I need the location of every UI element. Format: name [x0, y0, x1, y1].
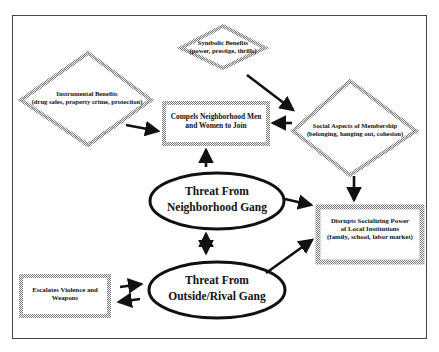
rival-gang-label: Threat From Outside/Rival Gang	[152, 273, 282, 304]
neighborhood-gang-label: Threat From Neighborhood Gang	[152, 184, 282, 215]
disrupts-line1: Disrupts Socializing Power	[320, 217, 420, 225]
rival-line1: Threat From	[152, 273, 282, 289]
social-detail: (belonging, hanging out, cohesion)	[296, 130, 414, 138]
arrow-instrumental-to-compels	[126, 125, 158, 131]
neighborhood-line2: Neighborhood Gang	[152, 200, 282, 216]
symbolic-benefits-label: Symbolic Benefits (power, prestige, thri…	[186, 39, 260, 55]
disrupts-line2: of Local Institutions	[320, 225, 420, 233]
arrow-rival-to-escalates	[119, 299, 140, 302]
social-title: Social Aspects of Membership	[313, 122, 397, 129]
neighborhood-line1: Threat From	[152, 184, 282, 200]
disrupts-label: Disrupts Socializing Power of Local Inst…	[320, 217, 420, 241]
arrow-neighborhood-to-disrupts	[285, 199, 311, 205]
arrow-rival-to-disrupts	[266, 240, 312, 273]
social-aspects-label: Social Aspects of Membership (belonging,…	[296, 122, 414, 138]
instrumental-title: Instrumental Benefits	[56, 90, 117, 97]
arrow-escalates-to-rival	[120, 284, 141, 287]
symbolic-detail: (power, prestige, thrills)	[186, 47, 260, 55]
compels-line2: and Women to Join	[166, 122, 266, 131]
escalates-label: Escalates Violence and Weapons	[23, 286, 107, 302]
instrumental-benefits-label: Instrumental Benefits (drug sales, prope…	[22, 90, 152, 106]
disrupts-line3: (family, school, labor market)	[320, 233, 420, 241]
instrumental-detail: (drug sales, property crime, protection)	[22, 98, 152, 106]
symbolic-title: Symbolic Benefits	[198, 39, 248, 46]
rival-line2: Outside/Rival Gang	[152, 289, 282, 305]
escalates-line2: Weapons	[23, 294, 107, 302]
compels-label: Compels Neighborhood Men and Women to Jo…	[166, 113, 266, 131]
escalates-line1: Escalates Violence and	[23, 286, 107, 294]
